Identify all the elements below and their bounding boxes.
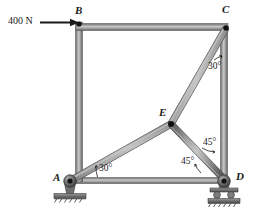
- angle-label-upper-45: 45°: [203, 138, 216, 148]
- statics-frame-diagram: 400 N A B C D E 30° 30° 45° 45°: [0, 0, 253, 209]
- load-arrow-400N: [40, 19, 79, 26]
- joint-label-A: A: [53, 172, 60, 183]
- angle-arc-upper-45: [202, 148, 215, 153]
- member-AB: [76, 22, 83, 182]
- joint-C: [223, 25, 229, 31]
- angle-label-c: 30°: [208, 62, 221, 72]
- load-label: 400 N: [8, 16, 33, 26]
- angle-arc-lower-45: [195, 164, 201, 173]
- member-AD: [70, 178, 225, 184]
- frame-drawing: [0, 0, 253, 209]
- angle-label-lower-45: 45°: [181, 157, 194, 167]
- member-ED: [170, 124, 224, 180]
- joint-label-B: B: [75, 5, 82, 16]
- angle-label-a: 30°: [99, 164, 112, 174]
- member-EC: [170, 27, 226, 124]
- joint-label-D: D: [236, 171, 244, 182]
- joint-label-E: E: [159, 107, 166, 118]
- member-BC: [76, 24, 228, 31]
- joint-label-C: C: [222, 4, 229, 15]
- member-AE: [70, 123, 171, 181]
- member-CD: [221, 27, 228, 182]
- joint-E: [168, 121, 174, 127]
